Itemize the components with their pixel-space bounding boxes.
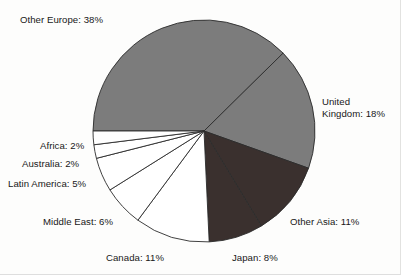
chart-frame: Other Europe: 38% United Kingdom: 18% Ot… — [0, 0, 401, 275]
slice-label-other-europe: Other Europe: 38% — [20, 14, 103, 26]
slice-label-japan: Japan: 8% — [232, 252, 278, 264]
slice-label-united-kingdom: United Kingdom: 18% — [322, 96, 385, 120]
pie-chart: Other Europe: 38% United Kingdom: 18% Ot… — [0, 0, 401, 275]
slice-label-middle-east: Middle East: 6% — [43, 216, 113, 228]
pie-slices — [93, 20, 315, 242]
pie-chart-graphic — [0, 0, 401, 275]
slice-label-latin-america: Latin America: 5% — [8, 178, 86, 190]
slice-label-other-asia: Other Asia: 11% — [290, 216, 359, 228]
slice-label-australia: Australia: 2% — [22, 158, 79, 170]
slice-label-canada: Canada: 11% — [106, 252, 164, 264]
slice-label-africa: Africa: 2% — [40, 140, 84, 152]
